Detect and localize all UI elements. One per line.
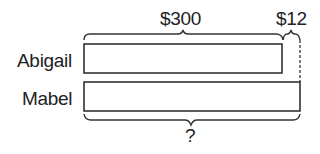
row-label-mabel: Mabel bbox=[22, 89, 72, 108]
label-300: $300 bbox=[160, 9, 201, 28]
brace-12 bbox=[283, 30, 300, 40]
label-total-unknown: ? bbox=[185, 126, 195, 145]
brace-300 bbox=[84, 30, 283, 40]
bar-abigail bbox=[84, 44, 282, 73]
brace-total bbox=[84, 114, 300, 125]
label-12: $12 bbox=[276, 9, 307, 28]
bar-mabel bbox=[84, 82, 300, 111]
row-label-abigail: Abigail bbox=[17, 51, 72, 70]
